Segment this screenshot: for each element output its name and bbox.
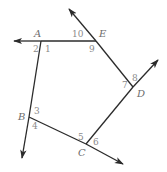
vertex-label-C: C [78,147,86,158]
vertex-label-E: E [98,28,107,39]
ray-from-C [86,144,123,164]
ray-from-B [22,117,29,158]
angle-label-4: 4 [32,121,38,131]
angle-label-3: 3 [34,106,40,116]
vertex-label-A: A [33,28,41,39]
angle-label-5: 5 [78,132,84,142]
angle-label-1: 1 [45,44,51,54]
pentagon-exterior-angles-diagram: AEDCB 12345678910 [0,0,167,172]
pentagon-sides [29,41,133,144]
angle-label-10: 10 [72,29,84,39]
angle-label-6: 6 [93,137,99,147]
angle-label-2: 2 [33,44,39,54]
angle-labels: 12345678910 [32,29,138,147]
angle-label-8: 8 [132,73,138,83]
angle-label-9: 9 [89,44,95,54]
vertex-label-B: B [17,111,25,122]
side-DC [86,87,133,144]
angle-label-7: 7 [122,80,128,90]
vertex-label-D: D [136,88,145,99]
